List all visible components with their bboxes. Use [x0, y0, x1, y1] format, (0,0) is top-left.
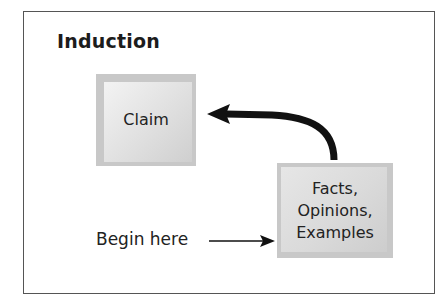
curved-arrow-icon	[207, 104, 334, 160]
arrows-layer	[0, 0, 448, 308]
begin-arrow-icon	[209, 235, 275, 247]
